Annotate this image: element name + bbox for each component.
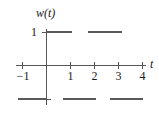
signal-segment-low-1-2	[63, 98, 96, 100]
x-tick-label-minus1: −1	[14, 70, 32, 82]
x-tick-label-4: 4	[137, 70, 148, 82]
signal-segment-low-minus1-0	[18, 98, 46, 100]
signal-segment-high-2-3	[88, 31, 122, 33]
signal-segment-low-3-4	[110, 98, 143, 100]
y-axis-line	[46, 29, 47, 105]
x-tick-label-2: 2	[89, 70, 100, 82]
x-axis-label: t	[150, 58, 153, 70]
x-tick-label-1: 1	[65, 70, 76, 82]
signal-segment-high-0-1	[46, 31, 72, 33]
x-tick-label-3: 3	[113, 70, 124, 82]
signal-plot-figure: w(t) 1 −1 1 2 3 4 t	[0, 0, 159, 121]
x-tick-4	[142, 62, 143, 69]
x-tick-minus1	[22, 62, 23, 69]
x-tick-1	[70, 62, 71, 69]
x-axis-line	[16, 65, 146, 66]
x-tick-3	[118, 62, 119, 69]
y-tick-label-1: 1	[31, 26, 37, 38]
signal-name-label: w(t)	[36, 7, 55, 19]
x-tick-2	[94, 62, 95, 69]
